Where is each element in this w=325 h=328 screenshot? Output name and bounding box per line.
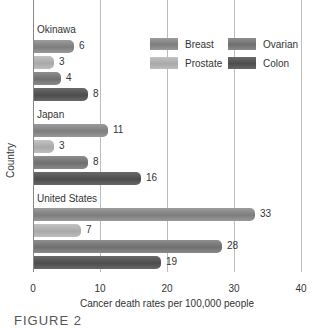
x-axis-title-text: Cancer death rates per 100,000 people bbox=[80, 298, 254, 309]
group-label-okinawa: Okinawa bbox=[37, 24, 76, 35]
value-label: 28 bbox=[227, 240, 238, 251]
group-label-japan: Japan bbox=[37, 109, 64, 120]
bar-us-ovarian bbox=[34, 240, 222, 253]
value-label: 16 bbox=[146, 172, 157, 183]
x-tick: 20 bbox=[161, 283, 172, 294]
x-tick: 10 bbox=[94, 283, 105, 294]
y-axis-title: Country bbox=[5, 143, 16, 178]
value-label: 11 bbox=[113, 124, 123, 135]
bar-japan-prostate bbox=[34, 140, 54, 153]
legend-swatch-colon bbox=[228, 57, 256, 69]
bar-japan-breast bbox=[34, 124, 108, 137]
legend-label: Prostate bbox=[185, 58, 222, 69]
bar-okinawa-breast bbox=[34, 40, 74, 53]
bar-okinawa-ovarian bbox=[34, 72, 61, 85]
x-tick: 40 bbox=[295, 283, 306, 294]
bar-okinawa-prostate bbox=[34, 56, 54, 69]
value-label: 19 bbox=[166, 256, 177, 267]
legend-swatch-ovarian bbox=[228, 38, 256, 50]
value-label: 8 bbox=[93, 88, 99, 99]
gridline-40 bbox=[301, 0, 302, 272]
legend-item-ovarian: Ovarian bbox=[228, 38, 298, 50]
value-label: 8 bbox=[93, 156, 99, 167]
legend-label: Breast bbox=[185, 39, 214, 50]
value-label: 6 bbox=[79, 40, 85, 51]
value-label: 7 bbox=[86, 224, 92, 235]
value-label: 3 bbox=[59, 56, 65, 67]
legend-swatch-prostate bbox=[150, 57, 178, 69]
legend-swatch-breast bbox=[150, 38, 178, 50]
legend-item-prostate: Prostate bbox=[150, 57, 222, 69]
x-tick: 30 bbox=[228, 283, 239, 294]
value-label: 4 bbox=[66, 72, 72, 83]
figure-caption: FIGURE 2 bbox=[14, 313, 82, 328]
bar-us-prostate bbox=[34, 224, 81, 237]
value-label: 3 bbox=[59, 140, 65, 151]
bar-us-breast bbox=[34, 208, 255, 221]
bar-japan-ovarian bbox=[34, 156, 88, 169]
legend-label: Ovarian bbox=[263, 39, 298, 50]
bar-japan-colon bbox=[34, 172, 141, 185]
legend-item-breast: Breast bbox=[150, 38, 214, 50]
x-tick: 0 bbox=[30, 283, 36, 294]
legend-item-colon: Colon bbox=[228, 57, 289, 69]
group-label-united-states: United States bbox=[37, 193, 97, 204]
bar-us-colon bbox=[34, 256, 161, 269]
value-label: 33 bbox=[260, 208, 271, 219]
legend-label: Colon bbox=[263, 58, 289, 69]
bar-okinawa-colon bbox=[34, 88, 88, 101]
